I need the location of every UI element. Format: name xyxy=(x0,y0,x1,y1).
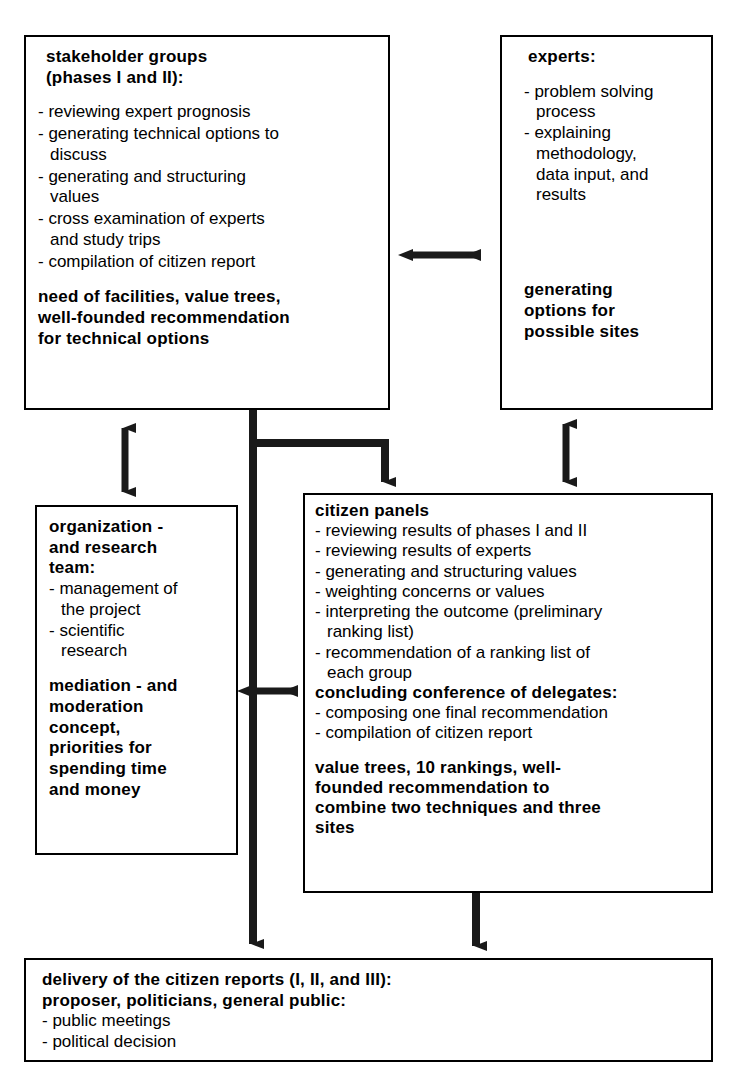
list-item: - political decision xyxy=(42,1032,701,1052)
list-item: - weighting concerns or values xyxy=(315,582,703,602)
box-organization-research-team: organization - and research team: - mana… xyxy=(35,505,238,855)
organization-outcome: mediation - and moderation concept, prio… xyxy=(49,676,226,800)
list-item: - cross examination of experts and study… xyxy=(38,209,378,250)
list-item: - public meetings xyxy=(42,1011,701,1031)
citizen-title: citizen panels xyxy=(315,501,703,521)
experts-outcome: generating options for possible sites xyxy=(524,280,701,342)
citizen-subitem-list: - composing one final recommendation - c… xyxy=(315,703,703,743)
list-item: - reviewing expert prognosis xyxy=(38,102,378,123)
list-item: - explaining methodology, data input, an… xyxy=(524,123,701,206)
list-item: - generating and structuring values xyxy=(315,562,703,582)
list-item: - problem solving process xyxy=(524,82,701,123)
stakeholder-item-list: - reviewing expert prognosis - generatin… xyxy=(38,102,378,272)
connector-stakeholder-citizen xyxy=(253,443,385,482)
box-delivery-of-citizen-reports: delivery of the citizen reports (I, II, … xyxy=(24,958,713,1062)
list-item: - generating and structuring values xyxy=(38,167,378,208)
citizen-subtitle: concluding conference of delegates: xyxy=(315,683,703,703)
list-item: - generating technical options to discus… xyxy=(38,124,378,165)
organization-title: organization - and research team: xyxy=(49,517,226,579)
delivery-item-list: - public meetings - political decision xyxy=(42,1011,701,1052)
list-item: - scientific research xyxy=(49,621,226,662)
box-experts: experts: - problem solving process - exp… xyxy=(500,35,713,410)
list-item: - compilation of citizen report xyxy=(315,723,703,743)
list-item: - reviewing results of phases I and II xyxy=(315,521,703,541)
diagram-canvas: stakeholder groups (phases I and II): - … xyxy=(0,0,735,1086)
stakeholder-title: stakeholder groups (phases I and II): xyxy=(46,47,378,88)
box-stakeholder-groups: stakeholder groups (phases I and II): - … xyxy=(24,35,390,410)
list-item: - reviewing results of experts xyxy=(315,541,703,561)
list-item: - management of the project xyxy=(49,579,226,620)
experts-title: experts: xyxy=(528,47,701,68)
delivery-title: delivery of the citizen reports (I, II, … xyxy=(42,970,701,1011)
organization-item-list: - management of the project - scientific… xyxy=(49,579,226,662)
list-item: - composing one final recommendation xyxy=(315,703,703,723)
box-citizen-panels: citizen panels - reviewing results of ph… xyxy=(303,493,713,893)
list-item: - interpreting the outcome (preliminary … xyxy=(315,602,703,642)
citizen-item-list: - reviewing results of phases I and II -… xyxy=(315,521,703,683)
citizen-outcome: value trees, 10 rankings, well- founded … xyxy=(315,758,703,839)
list-item: - recommendation of a ranking list of ea… xyxy=(315,643,703,683)
list-item: - compilation of citizen report xyxy=(38,252,378,273)
stakeholder-outcome: need of facilities, value trees, well-fo… xyxy=(38,287,378,349)
experts-item-list: - problem solving process - explaining m… xyxy=(524,82,701,206)
